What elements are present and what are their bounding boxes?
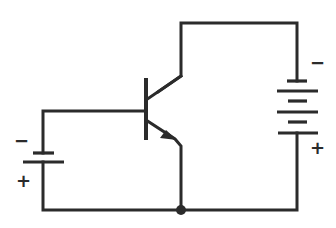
circuit-diagram: − + − +	[0, 0, 336, 228]
base-battery-return-wire	[43, 133, 297, 210]
collector-battery-negative-label: −	[310, 52, 325, 73]
junction-dot	[176, 205, 186, 215]
base-battery-positive-label: +	[16, 170, 31, 191]
transistor-collector-lead	[146, 76, 181, 100]
collector-wire	[158, 23, 297, 92]
collector-battery-positive-label: +	[310, 137, 325, 158]
base-battery-negative-label: −	[14, 130, 29, 151]
base-wire	[43, 111, 146, 153]
